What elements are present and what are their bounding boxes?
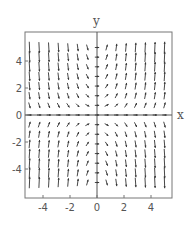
x-tick-label: -4 — [38, 202, 48, 213]
y-tick-label: -4 — [12, 164, 22, 175]
y-tick-labels: -4-2024 — [12, 56, 28, 175]
x-tick-label: 0 — [94, 202, 100, 213]
vector-field-plot: -4-2024 -4-2024 x y — [0, 0, 188, 231]
y-axis-label: y — [92, 14, 100, 28]
x-axis-label: x — [177, 108, 184, 122]
x-tick-label: -2 — [65, 202, 75, 213]
y-tick-label: 2 — [16, 83, 22, 94]
x-tick-label: 2 — [121, 202, 127, 213]
y-tick-label: 4 — [16, 56, 22, 67]
y-tick-label: 0 — [16, 110, 22, 121]
x-tick-label: 4 — [148, 202, 154, 213]
y-tick-label: -2 — [12, 137, 22, 148]
